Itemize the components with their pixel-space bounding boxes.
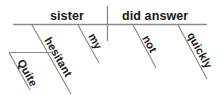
word-not: not <box>140 33 159 54</box>
word-my: my <box>86 31 105 52</box>
sentence-diagram-canvas: sister did answer hesitant my Quite not … <box>0 0 221 95</box>
word-predicate: did answer <box>122 9 188 23</box>
word-quickly: quickly <box>185 30 215 71</box>
sentence-diagram: sister did answer hesitant my Quite not … <box>0 0 221 95</box>
word-subject: sister <box>50 9 84 23</box>
word-quite: Quite <box>15 57 40 88</box>
